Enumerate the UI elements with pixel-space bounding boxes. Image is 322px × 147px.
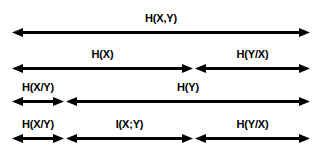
conditional-entropy-y-given-x-double-arrow-icon: [195, 62, 310, 75]
entropy-relationships-diagram: H(X,Y)H(X)H(Y/X)H(X/Y)H(Y)H(X/Y)I(X;Y)H(…: [0, 0, 322, 147]
conditional-entropy-y-given-x-segment: H(Y/X): [195, 48, 310, 84]
arrowhead-right: [299, 64, 310, 73]
conditional-entropy-y-given-x-segment: H(Y/X): [195, 118, 310, 147]
arrowhead-left: [66, 97, 77, 106]
arrowhead-right: [299, 134, 310, 143]
arrowhead-right: [299, 97, 310, 106]
arrowhead-left: [12, 28, 23, 37]
arrowhead-right: [53, 97, 64, 106]
conditional-entropy-y-given-x-label: H(Y/X): [195, 118, 310, 131]
entropy-y-label: H(Y): [66, 81, 310, 94]
conditional-entropy-x-given-y-segment: H(X/Y): [12, 81, 64, 117]
arrowhead-left: [12, 64, 23, 73]
conditional-entropy-x-given-y-label: H(X/Y): [12, 81, 64, 94]
hxgy-hy-row: H(X/Y)H(Y): [0, 81, 322, 117]
hx-hygx-row: H(X)H(Y/X): [0, 48, 322, 84]
entropy-x-double-arrow-icon: [12, 62, 193, 75]
conditional-entropy-y-given-x-label: H(Y/X): [195, 48, 310, 61]
entropy-x-segment: H(X): [12, 48, 193, 84]
arrowhead-left: [12, 134, 23, 143]
entropy-x-label: H(X): [12, 48, 193, 61]
entropy-y-segment: H(Y): [66, 81, 310, 117]
conditional-entropy-x-given-y-label: H(X/Y): [12, 118, 64, 131]
mutual-information-double-arrow-icon: [66, 132, 193, 145]
joint-entropy-label: H(X,Y): [12, 12, 310, 25]
arrowhead-left: [195, 64, 206, 73]
joint-entropy-row: H(X,Y): [0, 12, 322, 48]
decomposition-row: H(X/Y)I(X;Y)H(Y/X): [0, 118, 322, 147]
arrowhead-left: [195, 134, 206, 143]
arrowhead-right: [182, 134, 193, 143]
mutual-information-segment: I(X;Y): [66, 118, 193, 147]
entropy-y-double-arrow-icon: [66, 95, 310, 108]
arrowhead-right: [182, 64, 193, 73]
mutual-information-label: I(X;Y): [66, 118, 193, 131]
conditional-entropy-x-given-y-double-arrow-icon: [12, 132, 64, 145]
joint-entropy-double-arrow-icon: [12, 26, 310, 39]
joint-entropy-segment: H(X,Y): [12, 12, 310, 48]
arrowhead-left: [66, 134, 77, 143]
conditional-entropy-x-given-y-double-arrow-icon: [12, 95, 64, 108]
conditional-entropy-y-given-x-double-arrow-icon: [195, 132, 310, 145]
arrowhead-right: [299, 28, 310, 37]
conditional-entropy-x-given-y-segment: H(X/Y): [12, 118, 64, 147]
arrowhead-right: [53, 134, 64, 143]
arrowhead-left: [12, 97, 23, 106]
